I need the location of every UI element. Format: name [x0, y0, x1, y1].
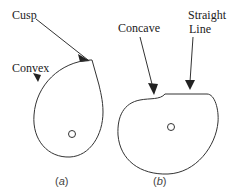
- pivot-a-icon: [69, 131, 76, 138]
- straight-line-arrowhead-icon: [185, 80, 195, 90]
- straight-line-arrow: [190, 37, 193, 82]
- caption-a: (a): [55, 175, 68, 187]
- figure-b: Concave Straight Line (b): [118, 8, 227, 187]
- label-concave: Concave: [118, 21, 160, 35]
- concave-arrowhead-icon: [148, 83, 158, 95]
- cam-profile-b: [118, 94, 218, 174]
- label-straight: Straight: [188, 8, 227, 22]
- concave-arrow: [140, 37, 153, 88]
- pivot-b-icon: [168, 124, 175, 131]
- cam-profile-diagram: Cusp Convex (a) Concave Straight Line (b…: [0, 0, 235, 193]
- figure-a: Cusp Convex (a): [12, 8, 103, 187]
- caption-b: (b): [153, 175, 166, 187]
- cusp-arrow: [36, 19, 88, 60]
- label-convex: Convex: [12, 61, 49, 75]
- label-cusp: Cusp: [12, 8, 37, 22]
- label-line: Line: [189, 22, 211, 36]
